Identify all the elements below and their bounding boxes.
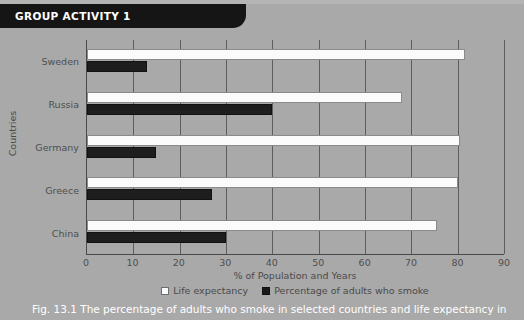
legend-label: Percentage of adults who smoke [274, 285, 429, 296]
plot-area [86, 40, 504, 255]
y-axis-label-sweden: Sweden [18, 40, 82, 83]
bar-groups [87, 40, 504, 254]
x-tick-50: 50 [312, 257, 324, 268]
bar-smoking-sweden [87, 61, 147, 72]
figure-page: GROUP ACTIVITY 1 Countries SwedenRussiaG… [0, 0, 524, 320]
x-tick-70: 70 [405, 257, 417, 268]
bar-life-expectancy-germany [87, 135, 460, 146]
bar-smoking-germany [87, 147, 156, 158]
x-tick-10: 10 [126, 257, 138, 268]
y-axis-tick-labels: SwedenRussiaGermanyGreeceChina [18, 40, 82, 255]
bar-life-expectancy-china [87, 220, 437, 231]
group-activity-banner: GROUP ACTIVITY 1 [0, 4, 246, 28]
y-axis-label-china: China [18, 212, 82, 255]
bar-group-germany [87, 126, 504, 169]
figure-caption: Fig. 13.1 The percentage of adults who s… [0, 298, 524, 320]
group-activity-label: GROUP ACTIVITY 1 [0, 10, 131, 22]
x-tick-40: 40 [266, 257, 278, 268]
x-tick-0: 0 [83, 257, 89, 268]
legend-item-life-expectancy: Life expectancy [161, 285, 248, 296]
bar-smoking-china [87, 232, 226, 243]
bar-group-china [87, 211, 504, 254]
y-axis-label-russia: Russia [18, 83, 82, 126]
chart-legend: Life expectancyPercentage of adults who … [86, 285, 504, 296]
y-axis-label-germany: Germany [18, 126, 82, 169]
black-square-icon [262, 287, 270, 295]
x-tick-90: 90 [498, 257, 510, 268]
bar-group-sweden [87, 40, 504, 83]
y-axis-label-greece: Greece [18, 169, 82, 212]
x-tick-80: 80 [452, 257, 464, 268]
x-axis-title: % of Population and Years [86, 270, 504, 281]
gridline-90 [504, 40, 505, 254]
y-axis-title: Countries [7, 94, 18, 174]
bar-group-russia [87, 83, 504, 126]
chart: Countries SwedenRussiaGermanyGreeceChina… [0, 34, 524, 296]
x-tick-30: 30 [219, 257, 231, 268]
bar-life-expectancy-sweden [87, 49, 465, 60]
figure-caption-text: Fig. 13.1 The percentage of adults who s… [0, 303, 517, 316]
x-axis-tick-labels: 0102030405060708090 [86, 257, 504, 271]
bar-life-expectancy-russia [87, 92, 402, 103]
bar-life-expectancy-greece [87, 177, 458, 188]
x-tick-60: 60 [359, 257, 371, 268]
legend-item-smoking: Percentage of adults who smoke [262, 285, 429, 296]
legend-label: Life expectancy [173, 285, 248, 296]
bar-smoking-russia [87, 104, 272, 115]
white-square-icon [161, 287, 169, 295]
bar-group-greece [87, 168, 504, 211]
x-tick-20: 20 [173, 257, 185, 268]
bar-smoking-greece [87, 189, 212, 200]
